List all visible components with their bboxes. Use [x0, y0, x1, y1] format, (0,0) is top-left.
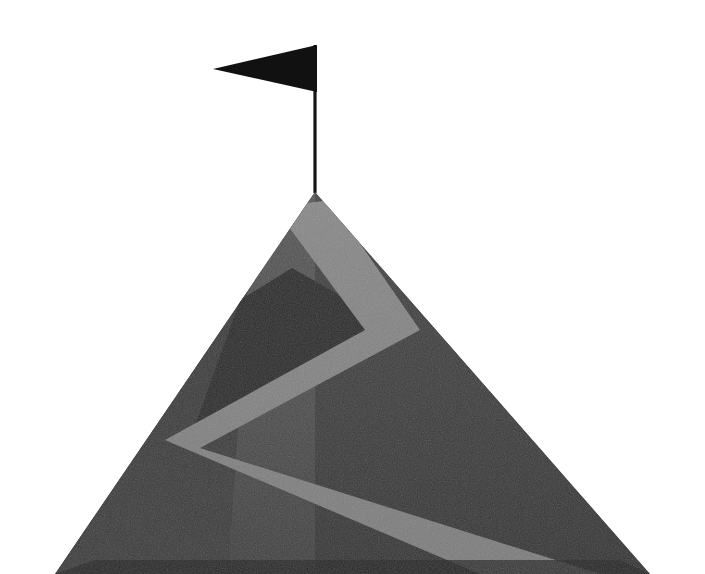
flag-pennant [213, 45, 317, 92]
illustration-canvas: Mountain Summit with Flag Flat illustrat… [0, 0, 705, 574]
grain-group [0, 0, 705, 574]
summit-flag-group [213, 45, 317, 193]
grain-texture [0, 0, 705, 574]
mountain-scene [0, 0, 705, 574]
